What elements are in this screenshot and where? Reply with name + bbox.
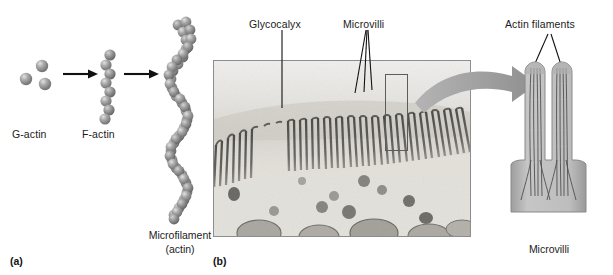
panel-b-tag: (b) [213,255,226,267]
microvilli-detail-label: Microvilli [509,243,589,255]
zoom-arrow-icon [415,66,537,113]
panel-b-overlay [0,0,613,275]
actin-filaments-label: Actin filaments [505,18,575,30]
microvilli-label: Microvilli [343,18,384,30]
microvilli-leader-lines [355,30,372,93]
figure-root: G-actin F-actin Microfilament (actin) (a… [0,0,613,275]
glycocalyx-label: Glycocalyx [249,18,301,30]
